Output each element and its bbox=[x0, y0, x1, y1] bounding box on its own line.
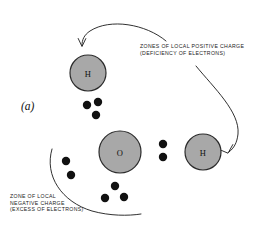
electron-dot bbox=[159, 153, 167, 161]
atom-hydrogen-top-label: H bbox=[85, 69, 91, 79]
electron-dot bbox=[111, 182, 119, 190]
atom-hydrogen-right-label: H bbox=[200, 148, 206, 158]
atom-oxygen-center-label: O bbox=[117, 148, 123, 158]
label-negative-zone-line3: (EXCESS OF ELECTRONS) bbox=[10, 206, 84, 213]
label-positive-zone: ZONES OF LOCAL POSITIVE CHARGE (DEFICIEN… bbox=[140, 43, 244, 56]
electron-cluster-bottom bbox=[101, 182, 128, 202]
electron-dot bbox=[120, 193, 128, 201]
label-negative-zone-line1: ZONE OF LOCAL bbox=[10, 193, 84, 200]
electron-dot bbox=[67, 171, 75, 179]
label-positive-zone-line2: (DEFICIENCY OF ELECTRONS) bbox=[140, 50, 244, 57]
electron-cluster-upper bbox=[83, 98, 102, 119]
label-negative-zone: ZONE OF LOCAL NEGATIVE CHARGE (EXCESS OF… bbox=[10, 193, 84, 213]
panel-letter: (a) bbox=[21, 100, 34, 112]
electron-dot bbox=[159, 140, 167, 148]
atom-oxygen-center: O bbox=[99, 131, 141, 173]
electron-cluster-right bbox=[159, 140, 167, 161]
label-positive-zone-line1: ZONES OF LOCAL POSITIVE CHARGE bbox=[140, 43, 244, 50]
electron-dot bbox=[94, 98, 102, 106]
atom-hydrogen-right: H bbox=[185, 134, 221, 170]
electron-dot bbox=[92, 111, 100, 119]
electron-dot bbox=[62, 157, 70, 165]
electron-dot bbox=[83, 101, 91, 109]
atom-hydrogen-top: H bbox=[70, 55, 106, 91]
electron-cluster-lower-left bbox=[62, 157, 75, 179]
water-polarity-diagram: H O H (a) Z bbox=[0, 0, 265, 233]
electron-dot bbox=[101, 194, 109, 202]
label-negative-zone-line2: NEGATIVE CHARGE bbox=[10, 200, 84, 207]
